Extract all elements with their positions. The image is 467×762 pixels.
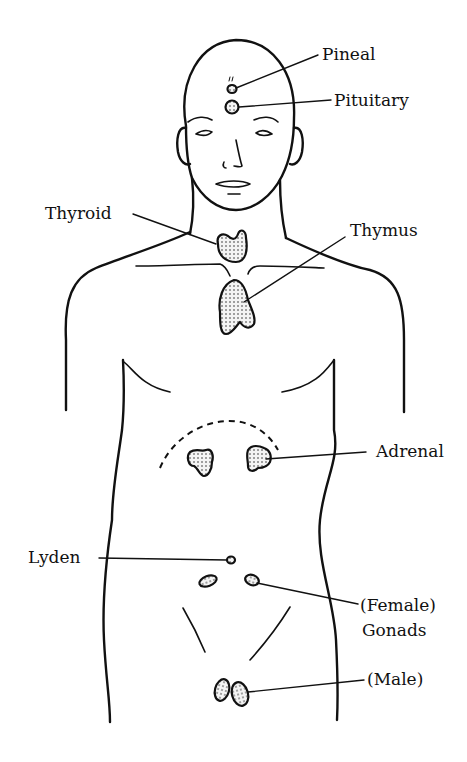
endocrine-diagram: Pineal Pituitary Thyroid Thymus Adrenal … bbox=[0, 0, 467, 762]
neck-right bbox=[280, 180, 286, 238]
left-eye bbox=[196, 131, 212, 136]
head-outline bbox=[184, 40, 294, 210]
left-rib bbox=[124, 362, 170, 392]
left-groin bbox=[183, 608, 205, 652]
nose bbox=[234, 140, 242, 167]
mouth bbox=[216, 181, 250, 187]
thymus-leader bbox=[244, 237, 345, 302]
right-torso bbox=[319, 360, 337, 720]
left-eyebrow bbox=[188, 117, 212, 122]
female-gonad-right bbox=[244, 573, 261, 587]
label-pituitary: Pituitary bbox=[334, 90, 409, 110]
male-gonad-left bbox=[212, 678, 231, 703]
lyden-gland bbox=[227, 557, 235, 564]
adrenal-leader bbox=[266, 452, 366, 459]
right-clavicle bbox=[248, 266, 324, 274]
left-clavicle bbox=[136, 264, 230, 276]
right-eyebrow bbox=[254, 117, 278, 122]
pituitary-leader bbox=[239, 100, 331, 107]
label-pineal: Pineal bbox=[322, 44, 375, 64]
glands bbox=[188, 77, 271, 708]
male-gonads-leader bbox=[248, 680, 364, 692]
label-thymus: Thymus bbox=[350, 220, 418, 240]
right-eye bbox=[256, 131, 272, 136]
pineal-gland bbox=[228, 85, 237, 93]
right-rib bbox=[282, 360, 334, 392]
label-adrenal: Adrenal bbox=[375, 441, 444, 461]
thymus-gland bbox=[220, 280, 255, 334]
male-gonad-right bbox=[229, 680, 251, 707]
neck-left bbox=[190, 178, 193, 234]
female-gonads-leader bbox=[257, 583, 358, 604]
face bbox=[188, 117, 278, 194]
label-gonads: Gonads bbox=[362, 620, 427, 640]
body-outline bbox=[66, 40, 404, 722]
left-torso bbox=[103, 360, 123, 722]
adrenal-gland-left bbox=[188, 450, 213, 476]
thyroid-gland bbox=[218, 231, 247, 262]
label-female: (Female) bbox=[360, 595, 436, 615]
diagram-svg: Pineal Pituitary Thyroid Thymus Adrenal … bbox=[0, 0, 467, 762]
label-lyden: Lyden bbox=[28, 547, 81, 567]
leader-lines bbox=[99, 55, 366, 692]
right-groin bbox=[250, 607, 290, 660]
female-gonad-left bbox=[198, 573, 218, 589]
label-male: (Male) bbox=[367, 669, 423, 689]
label-thyroid: Thyroid bbox=[45, 203, 112, 223]
lyden-leader bbox=[99, 558, 227, 560]
nostril-left bbox=[223, 162, 226, 168]
pineal-marks bbox=[229, 77, 233, 81]
left-shoulder-arm bbox=[66, 232, 190, 410]
pituitary-gland bbox=[226, 101, 239, 114]
